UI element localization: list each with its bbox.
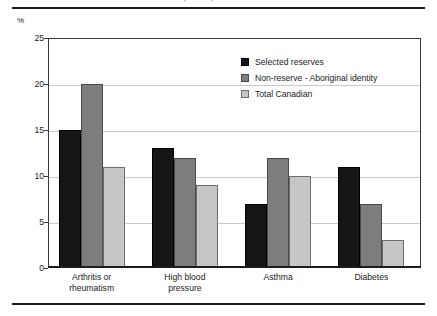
- chart-title: Chronic conditions, Canada, NPHS 2000-01…: [0, 0, 437, 2]
- bar-2-2: [289, 176, 311, 268]
- x-axis-baseline: [48, 266, 421, 268]
- bar-0-0: [59, 130, 81, 268]
- footer-rule: [12, 303, 425, 305]
- legend-item-label: Non-reserve - Aboriginal identity: [255, 73, 377, 83]
- bar-0-1: [152, 148, 174, 268]
- legend-item-label: Total Canadian: [255, 89, 312, 99]
- category-label-line: Asthma: [232, 272, 325, 283]
- bar-0-3: [338, 167, 360, 268]
- bar-1-0: [81, 84, 103, 268]
- y-axis-unit-label: %: [17, 16, 24, 25]
- chart-legend: Selected reserves Non-reserve - Aborigin…: [241, 54, 377, 102]
- chart-title-container: Chronic conditions, Canada, NPHS 2000-01…: [0, 0, 437, 6]
- legend-swatch-icon: [241, 90, 249, 98]
- bar-2-0: [103, 167, 125, 268]
- category-label: High bloodpressure: [138, 272, 231, 294]
- category-label-line: Diabetes: [325, 272, 418, 283]
- category-label-line: Arthritis or: [45, 272, 138, 283]
- category-label: Asthma: [232, 272, 325, 283]
- category-label: Arthritis orrheumatism: [45, 272, 138, 294]
- legend-swatch-icon: [241, 74, 249, 82]
- bar-1-1: [174, 158, 196, 268]
- category-label-line: pressure: [138, 283, 231, 294]
- bar-0-2: [245, 204, 267, 268]
- bar-2-3: [382, 240, 404, 268]
- bar-2-1: [196, 185, 218, 268]
- x-axis-category-labels: Arthritis orrheumatismHigh bloodpressure…: [48, 272, 421, 304]
- category-label-line: rheumatism: [45, 283, 138, 294]
- bar-1-3: [360, 204, 382, 268]
- legend-item-label: Selected reserves: [255, 57, 324, 67]
- bar-1-2: [267, 158, 289, 268]
- legend-swatch-icon: [241, 58, 249, 66]
- category-label: Diabetes: [325, 272, 418, 283]
- legend-item-non-reserve-aboriginal-identity: Non-reserve - Aboriginal identity: [241, 70, 377, 86]
- legend-item-total-canadian: Total Canadian: [241, 86, 377, 102]
- category-label-line: High blood: [138, 272, 231, 283]
- legend-item-selected-reserves: Selected reserves: [241, 54, 377, 70]
- y-axis-tick-marks: [0, 38, 48, 268]
- header-rule: [12, 7, 425, 9]
